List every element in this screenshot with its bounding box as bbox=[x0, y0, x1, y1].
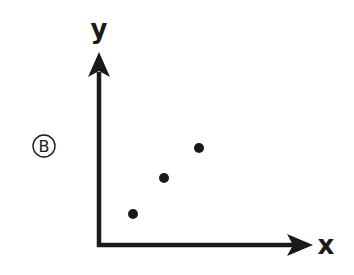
data-point-2 bbox=[159, 173, 169, 183]
x-axis: x bbox=[97, 230, 335, 260]
data-points bbox=[128, 143, 204, 219]
x-axis-label: x bbox=[318, 230, 335, 260]
scatter-diagram: B y x bbox=[0, 0, 354, 275]
y-axis: y bbox=[88, 14, 110, 247]
data-point-1 bbox=[128, 209, 138, 219]
option-badge: B bbox=[33, 135, 55, 157]
y-axis-label: y bbox=[91, 14, 108, 44]
option-letter: B bbox=[39, 137, 50, 156]
data-point-3 bbox=[194, 143, 204, 153]
